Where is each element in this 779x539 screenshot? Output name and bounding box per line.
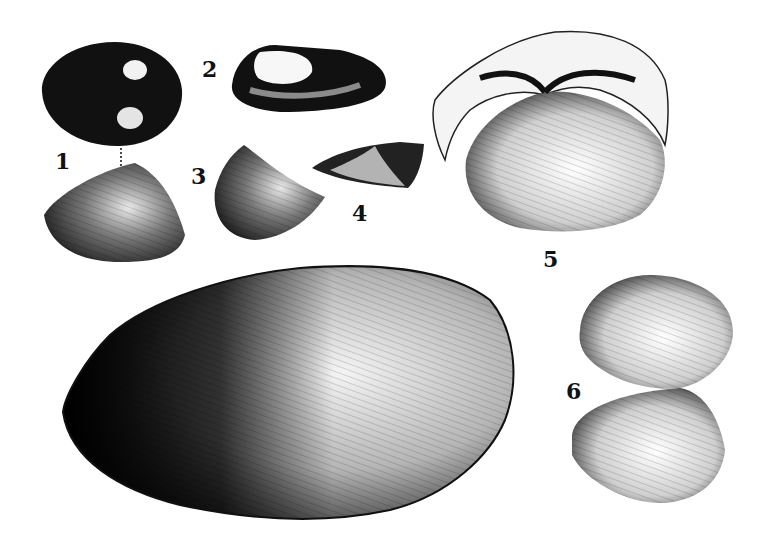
figure-1-label: 1 (55, 150, 70, 172)
shell-plate-illustration (0, 0, 779, 539)
figure-1-bottom-shell (44, 163, 185, 262)
figure-2-label: 2 (202, 58, 217, 80)
figure-6-label: 6 (566, 380, 581, 402)
figure-3-label: 3 (191, 165, 206, 187)
figure-4-label: 4 (352, 202, 367, 224)
figure-3-shell (215, 145, 325, 240)
figure-6-valves (572, 275, 733, 503)
large-mussel-shell (63, 266, 513, 519)
figure-1-top-shell (42, 42, 182, 146)
figure-4-shell (312, 142, 424, 188)
figure-5-label: 5 (543, 248, 558, 270)
figure-5-clam (433, 31, 668, 231)
figure-2-shell (232, 45, 386, 112)
